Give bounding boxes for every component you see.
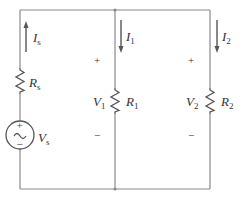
i2-label: I2 bbox=[221, 29, 231, 46]
current-i2-arrow-icon bbox=[215, 20, 220, 53]
current-i1-arrow-icon bbox=[119, 20, 124, 53]
r2-label: R2 bbox=[220, 94, 233, 111]
ac-voltage-source-icon: + − bbox=[6, 119, 34, 150]
v2-minus-sign: − bbox=[188, 129, 194, 141]
is-label: Is bbox=[32, 30, 41, 47]
resistor-rs-icon bbox=[16, 68, 24, 94]
v1-label: V1 bbox=[93, 94, 105, 111]
i1-label: I1 bbox=[125, 29, 135, 46]
resistor-r1-icon bbox=[111, 88, 119, 114]
v2-plus-sign: + bbox=[188, 54, 194, 66]
junction-dot-top bbox=[113, 8, 116, 11]
r1-label: R1 bbox=[125, 94, 138, 111]
vs-plus-sign: + bbox=[17, 119, 23, 131]
vs-minus-sign: − bbox=[17, 138, 23, 150]
circuit-diagram: Rs + − Vs Is I1 + V1 − R1 I2 + V2 − R2 bbox=[0, 0, 244, 199]
v2-label: V2 bbox=[186, 94, 198, 111]
junction-dot-bottom bbox=[113, 187, 116, 190]
v1-plus-sign: + bbox=[94, 54, 100, 66]
current-is-arrow-icon bbox=[24, 21, 29, 52]
v1-minus-sign: − bbox=[94, 129, 100, 141]
rs-label: Rs bbox=[28, 75, 41, 92]
vs-label: Vs bbox=[38, 130, 50, 147]
resistor-r2-icon bbox=[206, 88, 214, 114]
